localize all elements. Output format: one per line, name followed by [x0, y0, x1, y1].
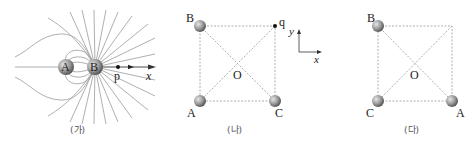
caption-da: (다)	[404, 126, 419, 135]
corner-label-top-left: B	[367, 12, 375, 24]
field-direction-arrow-icon	[128, 65, 134, 69]
corner-label-top-right: q	[279, 16, 285, 28]
center-label-o: O	[233, 69, 242, 81]
caption-ga: (가)	[70, 126, 85, 135]
corner-label-top-left: B	[186, 12, 194, 24]
charge-a-label: A	[61, 61, 70, 73]
center-label-o: O	[410, 69, 419, 81]
y-axis-label: y	[289, 26, 294, 37]
x-axis-label: x	[146, 70, 151, 82]
corner-label-bottom-right: A	[456, 107, 465, 119]
panel-ga: A B p x (가)	[0, 0, 165, 143]
charge-b	[194, 20, 206, 32]
corner-label-bottom-left: A	[187, 107, 196, 119]
test-charge-q	[273, 24, 277, 28]
corner-label-bottom-left: C	[366, 107, 374, 119]
charge-b-label: B	[90, 61, 98, 73]
field-lines-diagram	[0, 0, 165, 143]
panel-da: B C A O (다)	[350, 0, 476, 143]
point-p-label: p	[114, 70, 120, 82]
panel-na: B q A C O y x (나)	[165, 0, 350, 143]
corner-label-bottom-right: C	[275, 107, 283, 119]
caption-na: (나)	[227, 126, 242, 135]
x-axis-label: x	[314, 54, 319, 65]
y-axis-arrowhead-icon	[297, 29, 301, 34]
